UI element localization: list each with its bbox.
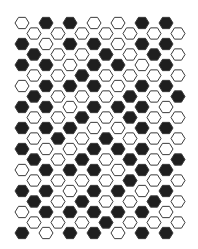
dark-hexagon [159, 185, 173, 196]
light-hexagon [159, 101, 173, 112]
dark-hexagon [135, 101, 149, 112]
light-hexagon [51, 112, 65, 123]
dark-hexagon [27, 49, 41, 60]
dark-hexagon [159, 17, 173, 28]
light-hexagon [99, 196, 113, 207]
dark-hexagon [15, 185, 29, 196]
light-hexagon [63, 143, 77, 154]
light-hexagon [111, 227, 125, 238]
dark-hexagon [99, 49, 113, 60]
light-hexagon [75, 91, 89, 102]
light-hexagon [171, 28, 185, 39]
dark-hexagon [123, 112, 137, 123]
light-hexagon [75, 217, 89, 228]
light-hexagon [111, 38, 125, 49]
dark-hexagon [15, 143, 29, 154]
light-hexagon [171, 196, 185, 207]
light-hexagon [99, 70, 113, 81]
light-hexagon [99, 112, 113, 123]
light-hexagon [87, 122, 101, 133]
dark-hexagon [135, 206, 149, 217]
light-hexagon [63, 59, 77, 70]
light-hexagon [111, 164, 125, 175]
dark-hexagon [39, 101, 53, 112]
dark-hexagon [171, 91, 185, 102]
dark-hexagon [111, 59, 125, 70]
light-hexagon [99, 28, 113, 39]
dark-hexagon [87, 80, 101, 91]
dark-hexagon [87, 38, 101, 49]
light-hexagon [147, 112, 161, 123]
dark-hexagon [63, 206, 77, 217]
light-hexagon [75, 28, 89, 39]
light-hexagon [123, 196, 137, 207]
dark-hexagon [75, 154, 89, 165]
dark-hexagon [87, 101, 101, 112]
light-hexagon [147, 91, 161, 102]
dark-hexagon [63, 38, 77, 49]
dark-hexagon [111, 143, 125, 154]
dark-hexagon [63, 227, 77, 238]
dark-hexagon [27, 154, 41, 165]
dark-hexagon [15, 101, 29, 112]
light-hexagon [27, 112, 41, 123]
light-hexagon [111, 17, 125, 28]
dark-hexagon [75, 196, 89, 207]
dark-hexagon [87, 185, 101, 196]
dark-hexagon [27, 196, 41, 207]
dark-hexagon [87, 227, 101, 238]
light-hexagon [51, 91, 65, 102]
light-hexagon [135, 59, 149, 70]
light-hexagon [51, 28, 65, 39]
light-hexagon [135, 185, 149, 196]
light-hexagon [123, 70, 137, 81]
light-hexagon [123, 217, 137, 228]
dark-hexagon [87, 164, 101, 175]
light-hexagon [27, 70, 41, 81]
dark-hexagon [87, 206, 101, 217]
light-hexagon [111, 122, 125, 133]
dark-hexagon [39, 206, 53, 217]
dark-hexagon [135, 17, 149, 28]
dark-hexagon [135, 80, 149, 91]
light-hexagon [171, 175, 185, 186]
dark-hexagon [135, 143, 149, 154]
light-hexagon [27, 133, 41, 144]
dark-hexagon [99, 217, 113, 228]
dark-hexagon [111, 101, 125, 112]
dark-hexagon [63, 164, 77, 175]
light-hexagon [147, 133, 161, 144]
dark-hexagon [135, 122, 149, 133]
dark-hexagon [87, 59, 101, 70]
light-hexagon [147, 175, 161, 186]
dark-hexagon [159, 59, 173, 70]
light-hexagon [99, 154, 113, 165]
dark-hexagon [39, 17, 53, 28]
light-hexagon [87, 17, 101, 28]
light-hexagon [39, 143, 53, 154]
dark-hexagon [111, 185, 125, 196]
light-hexagon [123, 28, 137, 39]
light-hexagon [51, 196, 65, 207]
light-hexagon [75, 49, 89, 60]
dark-hexagon [39, 122, 53, 133]
light-hexagon [171, 112, 185, 123]
dark-hexagon [159, 38, 173, 49]
dark-hexagon [159, 227, 173, 238]
light-hexagon [147, 154, 161, 165]
light-hexagon [15, 164, 29, 175]
light-hexagon [171, 217, 185, 228]
dark-hexagon [75, 112, 89, 123]
dark-hexagon [123, 175, 137, 186]
light-hexagon [27, 175, 41, 186]
dark-hexagon [15, 227, 29, 238]
light-hexagon [51, 70, 65, 81]
dark-hexagon [111, 206, 125, 217]
light-hexagon [27, 28, 41, 39]
light-hexagon [99, 91, 113, 102]
dark-hexagon [135, 38, 149, 49]
light-hexagon [171, 70, 185, 81]
dark-hexagon [123, 91, 137, 102]
dark-hexagon [51, 133, 65, 144]
light-hexagon [123, 49, 137, 60]
